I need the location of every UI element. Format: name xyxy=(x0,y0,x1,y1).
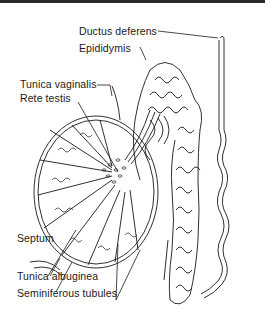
label-septum: Septum xyxy=(17,232,54,244)
label-tunica-vaginalis: Tunica vaginalis xyxy=(20,78,97,90)
label-seminiferous-tubules: Seminiferous tubules xyxy=(17,287,117,299)
ductus-deferens xyxy=(201,36,229,298)
tunica-vaginalis xyxy=(30,86,168,280)
epididymis xyxy=(133,63,201,305)
label-epididymis: Epididymis xyxy=(79,42,131,54)
label-tunica-albuginea: Tunica albuginea xyxy=(17,270,98,282)
label-rete-testis: Rete testis xyxy=(20,92,71,104)
label-ductus-deferens: Ductus deferens xyxy=(79,25,157,37)
testis-body xyxy=(34,110,160,268)
